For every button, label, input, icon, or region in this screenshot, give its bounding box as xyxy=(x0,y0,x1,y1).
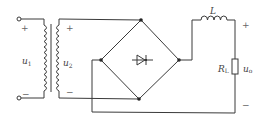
bridge-node-bottom xyxy=(137,97,141,101)
circuit-diagram: + − + − u1 u2 L RL uo + − xyxy=(0,0,264,126)
secondary-minus-label: − xyxy=(66,87,74,97)
secondary-top-wire xyxy=(59,19,141,20)
output-voltage-label: uo xyxy=(243,64,253,74)
diode-icon xyxy=(132,55,153,65)
primary-voltage-label: u1 xyxy=(22,56,32,67)
secondary-voltage-label: u2 xyxy=(63,58,73,69)
secondary-coil-icon xyxy=(57,25,60,91)
secondary-bottom-wire xyxy=(59,98,139,99)
bridge-node-top xyxy=(139,18,143,22)
primary-coil-icon xyxy=(44,25,47,91)
output-minus-label: − xyxy=(242,100,250,110)
resistor-label: RL xyxy=(217,64,229,74)
return-wire xyxy=(92,112,235,113)
primary-plus-label: + xyxy=(21,23,29,33)
inductor-icon xyxy=(201,16,227,20)
primary-terminal-top xyxy=(17,17,21,21)
output-plus-label: + xyxy=(242,20,250,30)
diode-bridge xyxy=(99,18,181,101)
primary-minus-label: − xyxy=(22,89,30,99)
resistor-icon xyxy=(232,59,238,74)
inductor-label: L xyxy=(209,6,216,16)
primary-terminal-bottom xyxy=(17,96,21,100)
secondary-plus-label: + xyxy=(66,23,74,33)
